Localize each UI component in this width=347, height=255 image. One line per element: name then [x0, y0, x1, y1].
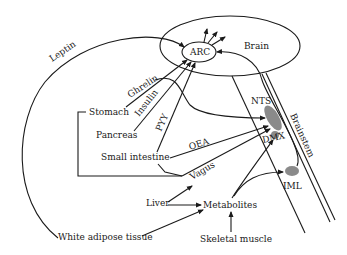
small-intestine-label: Small intestine — [101, 152, 170, 162]
white-adipose-label: White adipose tissue — [58, 232, 153, 242]
nts-label: NTS — [251, 96, 271, 106]
pyy-label: PYY — [154, 111, 171, 132]
adipose-to-metabolites-arrow — [142, 210, 203, 236]
brain-label: Brain — [244, 41, 269, 51]
vagus-label: Vagus — [187, 159, 217, 182]
brainstem-label: Brainstem — [288, 112, 316, 159]
skeletal-muscle-label: Skeletal muscle — [200, 234, 272, 244]
iml-to-arc-path — [217, 52, 298, 166]
gut-brain-signaling-diagram: Brain ARC Brainstem NTS DMX IML Leptin S… — [0, 0, 347, 255]
liver-label: Liver — [146, 198, 170, 208]
iml-nucleus — [285, 166, 299, 176]
oea-arrow — [170, 126, 268, 158]
ghrelin-arrow — [126, 60, 187, 107]
pancreas-label: Pancreas — [96, 130, 138, 140]
iml-label: IML — [283, 181, 302, 191]
pyy-arrow — [157, 63, 195, 152]
brain-ellipse — [160, 16, 300, 76]
leptin-label: Leptin — [48, 39, 78, 64]
oea-label: OEA — [188, 136, 211, 152]
stomach-label: Stomach — [89, 107, 129, 117]
metabolites-label: Metabolites — [203, 200, 257, 210]
liver-to-vagus-arrow — [168, 186, 192, 202]
dmx-label: DMX — [261, 130, 286, 145]
small-intestine-connector — [158, 164, 182, 176]
arc-output-arrows — [204, 29, 225, 45]
arc-label: ARC — [189, 47, 210, 57]
